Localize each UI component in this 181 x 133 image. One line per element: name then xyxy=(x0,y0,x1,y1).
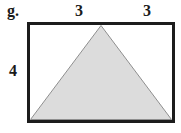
top-dimension-label-right: 3 xyxy=(135,3,159,19)
geometry-figure: g. 3 3 4 xyxy=(0,0,181,133)
triangle-canvas xyxy=(30,25,172,120)
left-dimension-label: 4 xyxy=(4,63,22,79)
top-dimension-label-left: 3 xyxy=(67,3,91,19)
problem-label: g. xyxy=(7,3,27,19)
shaded-triangle xyxy=(31,26,172,120)
rectangle-outline xyxy=(27,22,175,123)
